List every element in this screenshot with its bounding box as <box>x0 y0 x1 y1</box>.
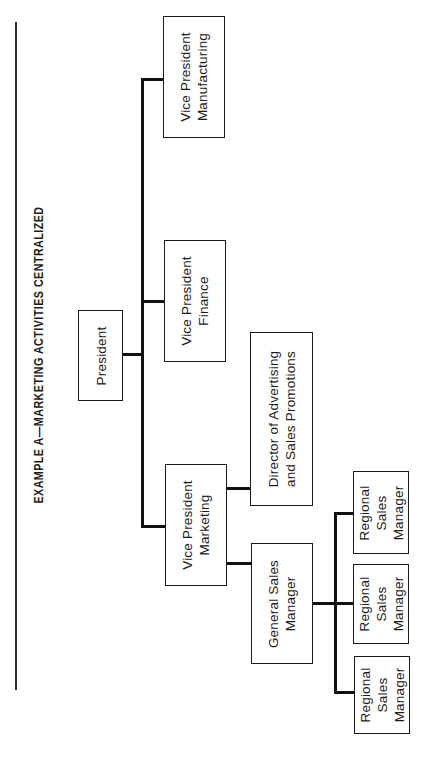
president-box: President <box>78 310 123 401</box>
vp-manufacturing-label: Vice President Manufacturing <box>177 32 211 122</box>
label-line: Regional <box>357 668 374 723</box>
label-line: Manufacturing <box>194 32 211 122</box>
vp-marketing-label: Vice President Marketing <box>179 480 213 570</box>
regional-1-connector <box>334 512 354 515</box>
regional-1-label: Regional Sales Manager <box>356 485 407 540</box>
director-advertising-label: Director of Advertising and Sales Promot… <box>265 351 299 488</box>
regional-sales-manager-box-3: Regional Sales Manager <box>354 656 410 734</box>
label-line: Sales <box>373 485 390 540</box>
director-connector <box>226 487 251 490</box>
regional-2-label: Regional Sales Manager <box>356 577 407 632</box>
label-line: Sales <box>373 577 390 632</box>
label-line: Sales <box>374 668 391 723</box>
label-line: Manager <box>391 668 408 723</box>
vp-marketing-connector <box>141 525 166 528</box>
label-line: Regional <box>356 485 373 540</box>
president-spine <box>141 78 144 528</box>
president-label: President <box>92 326 109 385</box>
general-sales-connector <box>226 562 252 565</box>
label-line: Vice President <box>179 480 196 570</box>
label-line: Director of Advertising <box>265 351 282 488</box>
regional-connector-stem <box>312 602 336 605</box>
vp-manufacturing-connector <box>141 78 164 81</box>
label-line: Manager <box>390 485 407 540</box>
general-sales-manager-box: General Sales Manager <box>251 543 313 664</box>
chart-title: EXAMPLE A—MARKETING ACTIVITIES CENTRALIZ… <box>31 174 46 536</box>
vp-finance-connector <box>141 300 165 303</box>
vp-finance-label: Vice President Finance <box>178 256 212 346</box>
label-line: Manager <box>390 577 407 632</box>
vp-marketing-box: Vice President Marketing <box>165 464 227 586</box>
label-line: President <box>92 326 109 385</box>
page-rule <box>15 22 17 690</box>
chart-title-text: EXAMPLE A—MARKETING ACTIVITIES CENTRALIZ… <box>31 206 46 503</box>
label-line: Manager <box>282 559 299 647</box>
label-line: General Sales <box>265 559 282 647</box>
label-line: and Sales Promotions <box>282 351 299 488</box>
director-advertising-box: Director of Advertising and Sales Promot… <box>250 332 313 506</box>
vp-manufacturing-box: Vice President Manufacturing <box>163 16 225 138</box>
vp-finance-box: Vice President Finance <box>164 240 226 362</box>
regional-3-label: Regional Sales Manager <box>357 668 408 723</box>
regional-3-connector <box>334 691 354 694</box>
regional-sales-manager-box-2: Regional Sales Manager <box>353 564 409 644</box>
label-line: Vice President <box>178 256 195 346</box>
general-sales-manager-label: General Sales Manager <box>265 559 299 647</box>
label-line: Finance <box>195 256 212 346</box>
label-line: Marketing <box>196 480 213 570</box>
label-line: Vice President <box>177 32 194 122</box>
regional-sales-manager-box-1: Regional Sales Manager <box>353 471 409 554</box>
president-connector <box>122 353 143 356</box>
regional-2-connector <box>334 602 354 605</box>
label-line: Regional <box>356 577 373 632</box>
